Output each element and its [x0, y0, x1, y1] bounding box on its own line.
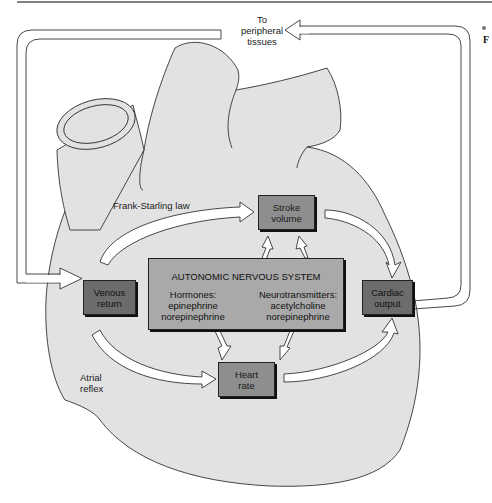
node-stroke-volume: Stroke volume	[258, 195, 315, 230]
ans-neurotransmitters: Neurotransmitters: acetylcholine norepin…	[255, 289, 341, 322]
edge-marker: F	[483, 34, 489, 45]
ans-line: norepinephrine	[155, 311, 231, 322]
node-label: Venous	[94, 287, 126, 298]
node-label: rate	[235, 380, 258, 391]
diagram-canvas: To peripheral tissues F Frank-Starling l…	[0, 0, 492, 503]
node-label: Cardiac	[371, 287, 404, 298]
ans-line: acetylcholine	[255, 300, 341, 311]
label-line: Atrial	[80, 372, 103, 383]
node-label: return	[94, 298, 126, 309]
node-label: output	[371, 298, 404, 309]
label-line: peripheral	[230, 25, 294, 36]
label-line: reflex	[80, 383, 103, 394]
frank-starling-label: Frank-Starling law	[113, 200, 190, 211]
node-venous-return: Venous return	[83, 280, 136, 315]
ans-line: Neurotransmitters:	[255, 289, 341, 300]
edge-bullet-icon	[482, 26, 486, 30]
diagram-graphics	[0, 0, 492, 503]
node-autonomic-nervous-system: AUTONOMIC NERVOUS SYSTEM Hormones: epine…	[148, 258, 344, 330]
ans-hormones: Hormones: epinephrine norepinephrine	[155, 289, 231, 322]
node-label: volume	[271, 213, 302, 224]
label-line: To	[230, 14, 294, 25]
label-line: tissues	[230, 36, 294, 47]
ans-line: Hormones:	[155, 289, 231, 300]
node-label: Heart	[235, 369, 258, 380]
peripheral-tissues-label: To peripheral tissues	[230, 14, 294, 47]
ans-line: epinephrine	[155, 300, 231, 311]
ans-title: AUTONOMIC NERVOUS SYSTEM	[149, 271, 343, 282]
node-cardiac-output: Cardiac output	[362, 280, 413, 315]
node-label: Stroke	[271, 202, 302, 213]
node-heart-rate: Heart rate	[218, 362, 275, 397]
atrial-reflex-label: Atrial reflex	[80, 372, 103, 394]
ans-line: norepinephrine	[255, 311, 341, 322]
